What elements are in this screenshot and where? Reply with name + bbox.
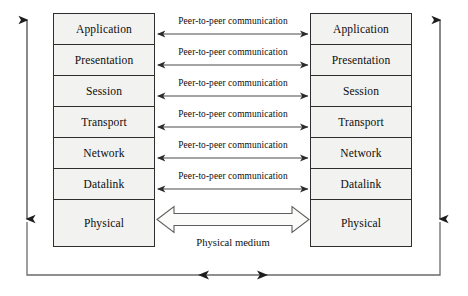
left-layer-datalink: Datalink bbox=[54, 169, 154, 200]
left-layer-transport: Transport bbox=[54, 107, 154, 138]
left-layer-session: Session bbox=[54, 76, 154, 107]
right-layer-network: Network bbox=[311, 138, 411, 169]
physical-medium-label: Physical medium bbox=[158, 237, 308, 248]
right-layer-datalink: Datalink bbox=[311, 169, 411, 200]
peer-label-datalink: Peer-to-peer communication bbox=[158, 171, 308, 181]
right-layer-session: Session bbox=[311, 76, 411, 107]
right-layer-transport: Transport bbox=[311, 107, 411, 138]
right-layer-physical: Physical bbox=[311, 200, 411, 246]
right-protocol-stack: Application Presentation Session Transpo… bbox=[310, 13, 412, 247]
right-layer-application: Application bbox=[311, 14, 411, 45]
physical-medium-arrow bbox=[157, 207, 309, 233]
left-layer-presentation: Presentation bbox=[54, 45, 154, 76]
peer-label-transport: Peer-to-peer communication bbox=[158, 109, 308, 119]
left-layer-network: Network bbox=[54, 138, 154, 169]
peer-label-session: Peer-to-peer communication bbox=[158, 78, 308, 88]
right-layer-presentation: Presentation bbox=[311, 45, 411, 76]
peer-label-presentation: Peer-to-peer communication bbox=[158, 47, 308, 57]
osi-peer-to-peer-diagram: Application Presentation Session Transpo… bbox=[0, 0, 468, 296]
left-layer-physical: Physical bbox=[54, 200, 154, 246]
left-protocol-stack: Application Presentation Session Transpo… bbox=[53, 13, 155, 247]
left-layer-application: Application bbox=[54, 14, 154, 45]
peer-label-network: Peer-to-peer communication bbox=[158, 140, 308, 150]
peer-label-application: Peer-to-peer communication bbox=[158, 16, 308, 26]
